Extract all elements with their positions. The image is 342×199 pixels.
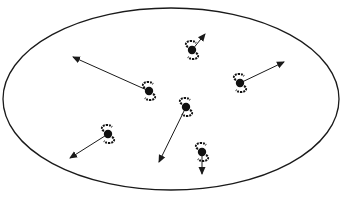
- spiral-galaxy-icon: [143, 82, 155, 100]
- spiral-galaxy-icon: [180, 98, 192, 116]
- diagram-canvas: [0, 0, 342, 199]
- galaxy: [73, 57, 155, 100]
- spiral-galaxy-icon: [186, 41, 198, 59]
- galaxy: [196, 143, 208, 174]
- universe-boundary-ellipse: [3, 8, 339, 190]
- spiral-galaxy-icon: [102, 125, 114, 143]
- expanding-universe-diagram: [0, 0, 342, 199]
- galaxy: [234, 62, 284, 92]
- galaxy: [159, 98, 192, 162]
- velocity-arrow-icon: [159, 107, 186, 162]
- velocity-arrow-icon: [70, 134, 108, 158]
- galaxies-group: [70, 34, 284, 174]
- velocity-arrow-icon: [73, 57, 149, 91]
- galaxy: [186, 34, 205, 59]
- galaxy: [70, 125, 114, 158]
- spiral-galaxy-icon: [234, 74, 246, 92]
- velocity-arrow-icon: [240, 62, 284, 83]
